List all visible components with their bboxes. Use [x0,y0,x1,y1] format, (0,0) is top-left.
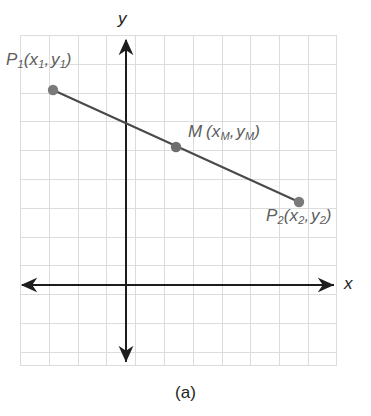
p2-comma: , [304,206,309,225]
m-y-subscript: M [245,130,254,142]
point-label-p1: P1(x1, y1) [6,50,72,70]
m-name: M [188,122,202,141]
point-p1 [48,85,58,95]
m-x-var: x [212,122,221,141]
p1-name: P [6,50,18,69]
m-x-subscript: M [221,130,230,142]
figure-midpoint-diagram: P1(x1, y1) M (xM, yM) P2(x2, y2) y x (a) [0,0,371,416]
m-comma: , [230,122,235,141]
m-y-var: y [236,122,245,141]
point-label-m: M (xM, yM) [188,122,260,142]
p1-x-var: x [30,50,39,69]
grid-lines [20,35,337,366]
p1-close-paren: ) [66,50,72,69]
figure-caption: (a) [0,383,371,403]
m-close-paren: ) [254,122,260,141]
point-label-p2: P2(x2, y2) [266,206,332,226]
x-axis-label: x [344,274,353,294]
p2-y-var: y [311,206,320,225]
p2-name: P [266,206,278,225]
p1-comma: , [44,50,49,69]
point-m [171,142,181,152]
p1-y-var: y [51,50,60,69]
p2-x-var: x [290,206,299,225]
y-axis-label: y [118,9,127,29]
p2-close-paren: ) [326,206,332,225]
